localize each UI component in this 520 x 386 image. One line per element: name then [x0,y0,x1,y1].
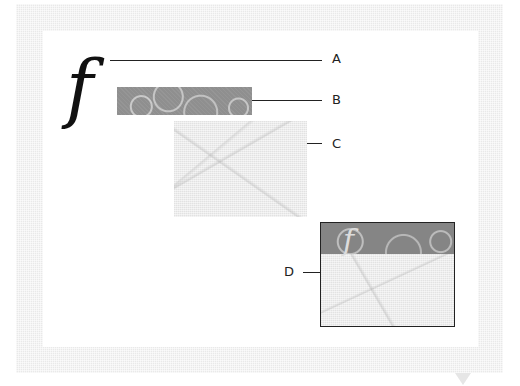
composite-result: f [320,222,455,327]
leader-line-c [307,143,322,144]
composite-banner-layer [321,223,454,254]
leader-line-d [303,272,320,273]
paper-texture [174,121,307,217]
callout-label-c: C [332,137,341,151]
circle-pattern-banner [117,87,252,115]
composite-paper-layer [321,254,454,326]
leader-line-a [110,60,322,61]
frame-pointer [455,373,471,385]
callout-label-a: A [332,52,341,66]
letter-f-glyph: f [66,50,93,124]
callout-label-d: D [284,265,294,279]
callout-label-b: B [332,93,341,107]
composite-letter-f: f [343,225,354,255]
leader-line-b [252,100,322,101]
